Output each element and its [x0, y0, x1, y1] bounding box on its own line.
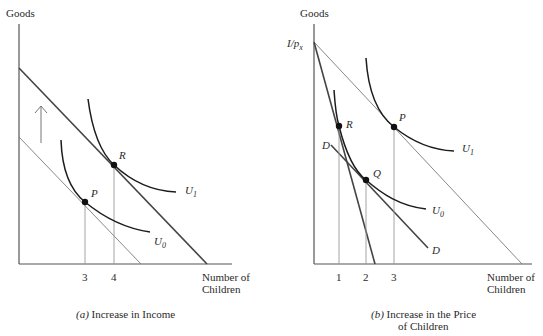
panel-a-label-u1: U1 [185, 184, 197, 199]
panel-b-compensated-budget-line-d [331, 145, 428, 248]
panel-b-y-axis-label: Goods [300, 7, 329, 19]
panel-a-tick-3: 3 [82, 271, 88, 283]
panel-b-indifference-curve-u0 [334, 90, 426, 209]
panel-b-point-p [391, 124, 397, 130]
panel-b-label-r: R [345, 118, 353, 130]
panel-a-indifference-curve-u1 [88, 99, 176, 192]
panel-b-tick-1: 1 [336, 271, 342, 283]
panel-a-x-axis-label-line2: Children [202, 283, 241, 295]
economics-diagram: Goods R P U1 U0 3 4 Number of Children [0, 0, 543, 336]
panel-b-label-p: P [398, 111, 406, 123]
panel-b-increase-in-price-of-children: Goods I/px P R Q D D U1 U0 1 2 [286, 7, 535, 332]
panel-b-label-u1: U1 [462, 142, 474, 157]
panel-a-caption: (a) Increase in Income [76, 308, 175, 321]
panel-b-tick-2: 2 [363, 271, 369, 283]
panel-a-x-axis-label-line1: Number of [202, 271, 250, 283]
panel-b-indifference-curve-u1 [366, 58, 454, 151]
panel-b-caption-line2: of Children [398, 320, 449, 332]
panel-a-point-p [82, 199, 88, 205]
panel-b-tick-3: 3 [391, 271, 397, 283]
panel-b-label-u0: U0 [432, 204, 444, 219]
panel-a-tick-4: 4 [111, 271, 117, 283]
up-arrow-icon [35, 106, 47, 143]
panel-a-y-axis-label: Goods [6, 7, 35, 19]
panel-a-point-r [111, 162, 117, 168]
panel-b-intercept-label: I/px [286, 37, 303, 52]
panel-a-label-u0: U0 [154, 235, 166, 250]
panel-b-point-q [363, 177, 369, 183]
panel-a-label-r: R [118, 149, 126, 161]
panel-b-x-axis-label-line1: Number of [487, 271, 535, 283]
panel-a-label-p: P [90, 187, 98, 199]
panel-b-label-q: Q [373, 167, 381, 179]
panel-b-x-axis-label-line2: Children [487, 283, 526, 295]
panel-b-label-d-top: D [321, 139, 330, 151]
panel-b-point-r [336, 123, 342, 129]
panel-b-label-d-bottom: D [431, 244, 440, 256]
panel-a-increase-in-income: Goods R P U1 U0 3 4 Number of Children [6, 7, 250, 321]
